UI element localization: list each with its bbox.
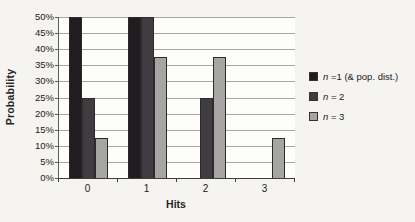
bar-series1-hits1 [128,17,141,178]
gridline-35 [59,65,295,66]
y-tick-mark [55,146,58,147]
y-tick-mark [55,17,58,18]
x-tick-mark [294,179,295,182]
legend-label-rest: = 2 [328,91,344,102]
legend-item-3: n = 3 [309,111,398,122]
bar-series3-hits3 [272,138,285,178]
x-tick-mark [235,179,236,182]
y-tick-label: 50% [0,11,54,23]
x-tick-mark [58,179,59,182]
y-tick-mark [55,114,58,115]
bar-series2-hits0 [82,98,95,179]
plot-area [58,17,295,179]
bar-chart: Probability 50%45%40%35%30%25%20%15%10%5… [0,0,415,222]
gridline-50 [59,17,295,18]
y-tick-mark [55,65,58,66]
y-tick-label: 10% [0,140,54,152]
legend-swatch-icon [309,92,318,101]
y-tick-mark [55,162,58,163]
y-tick-label: 25% [0,92,54,104]
bar-series2-hits2 [200,98,213,179]
legend-swatch-icon [309,72,318,81]
y-tick-label: 35% [0,59,54,71]
x-category-label-2: 2 [194,183,218,194]
gridline-40 [59,49,295,50]
y-tick-label: 45% [0,27,54,39]
x-tick-mark [117,179,118,182]
bar-series3-hits1 [154,57,167,178]
legend-swatch-icon [309,112,318,121]
bar-series2-hits1 [141,17,154,178]
y-tick-mark [55,130,58,131]
x-category-label-1: 1 [135,183,159,194]
y-tick-label: 15% [0,124,54,136]
y-tick-label: 0% [0,172,54,184]
x-axis-title: Hits [166,198,186,210]
y-tick-mark [55,49,58,50]
x-category-label-3: 3 [253,183,277,194]
y-tick-label: 5% [0,156,54,168]
bar-series1-hits0 [69,17,82,178]
y-tick-label: 40% [0,43,54,55]
legend-label-rest: =1 (& pop. dist.) [328,71,398,82]
legend-label: n = 3 [323,111,344,122]
bar-series3-hits0 [95,138,108,178]
y-tick-mark [55,81,58,82]
legend-item-1: n =1 (& pop. dist.) [309,71,398,82]
legend-label: n = 2 [323,91,344,102]
legend: n =1 (& pop. dist.)n = 2n = 3 [309,71,398,122]
x-tick-mark [176,179,177,182]
bar-series3-hits2 [213,57,226,178]
y-tick-label: 30% [0,75,54,87]
gridline-45 [59,33,295,34]
legend-label: n =1 (& pop. dist.) [323,71,398,82]
y-tick-mark [55,33,58,34]
y-tick-mark [55,98,58,99]
x-category-label-0: 0 [76,183,100,194]
legend-item-2: n = 2 [309,91,398,102]
gridline-30 [59,81,295,82]
y-tick-label: 20% [0,108,54,120]
legend-label-rest: = 3 [328,111,344,122]
